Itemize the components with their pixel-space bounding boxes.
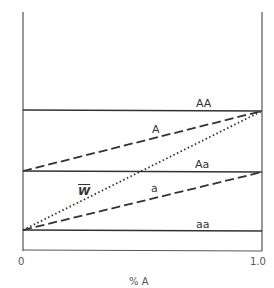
label-AA: AA xyxy=(196,98,211,109)
x-tick-0: 0 xyxy=(18,257,24,267)
label-A: A xyxy=(152,124,160,135)
x-tick-1: 1.0 xyxy=(250,257,266,267)
label-aa: aa xyxy=(196,219,209,230)
x-axis-line xyxy=(23,250,262,251)
label-a: a xyxy=(151,183,158,194)
line-A xyxy=(23,111,262,171)
label-Aa: Aa xyxy=(195,159,209,170)
label-W-mean: W xyxy=(78,186,90,197)
line-AA xyxy=(23,110,262,111)
diagram-canvas xyxy=(0,0,274,288)
line-a xyxy=(23,172,262,230)
line-aa xyxy=(23,230,262,231)
x-axis-label: % A xyxy=(129,277,149,287)
